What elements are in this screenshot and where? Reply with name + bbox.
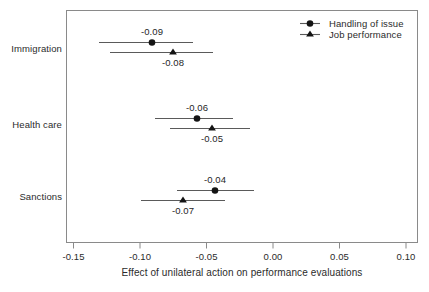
series-point-sanctions-handling <box>177 187 254 194</box>
y-axis-label-immigration: Immigration <box>0 43 62 54</box>
x-tick-label-2: -0.05 <box>177 251 237 262</box>
circle-marker <box>149 39 156 46</box>
x-axis-ticks <box>74 243 407 249</box>
x-tick-label-3: 0.00 <box>243 251 303 262</box>
series-point-health-handling <box>155 115 233 122</box>
clipped-caption <box>0 282 429 292</box>
series-point-health-jobperf <box>170 125 250 131</box>
plot-frame <box>67 11 418 243</box>
circle-marker <box>194 115 201 122</box>
x-tick-label-5: 0.10 <box>376 251 429 262</box>
circle-marker <box>212 187 219 194</box>
legend-symbol-jobperf <box>300 31 320 37</box>
value-label-immigration-jobperf: -0.08 <box>143 57 203 68</box>
legend-label-handling-of-issue: Handling of issue <box>329 18 404 29</box>
triangle-marker <box>208 125 216 131</box>
series-point-immigration-handling <box>99 39 193 46</box>
series-point-immigration-jobperf <box>110 49 213 55</box>
value-label-immigration-handling: -0.09 <box>122 26 182 37</box>
x-tick-label-4: 0.05 <box>310 251 370 262</box>
legend-label-job-performance: Job performance <box>329 29 402 40</box>
value-label-health-jobperf: -0.05 <box>182 133 242 144</box>
x-tick-label-1: -0.10 <box>110 251 170 262</box>
legend-symbol-handling <box>300 20 320 27</box>
forest-plot-figure: Immigration Health care Sanctions -0.15 … <box>0 0 429 292</box>
triangle-marker <box>169 49 177 55</box>
triangle-marker <box>179 197 187 203</box>
x-tick-label-0: -0.15 <box>44 251 104 262</box>
value-label-health-handling: -0.06 <box>167 102 227 113</box>
x-axis-title: Effect of unilateral action on performan… <box>66 267 418 278</box>
value-label-sanctions-handling: -0.04 <box>185 174 245 185</box>
series-point-sanctions-jobperf <box>141 197 225 203</box>
plot-canvas <box>0 0 429 292</box>
value-label-sanctions-jobperf: -0.07 <box>153 205 213 216</box>
y-axis-label-sanctions: Sanctions <box>0 191 62 202</box>
y-axis-label-health-care: Health care <box>0 119 62 130</box>
